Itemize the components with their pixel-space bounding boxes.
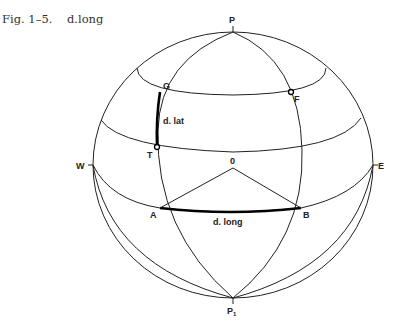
label-f: F <box>294 94 300 104</box>
meridian-right <box>233 32 302 298</box>
equator <box>93 165 373 212</box>
sphere-diagram: P G F d. lat T W E 0 A B d. long P1 <box>0 0 395 327</box>
point-f-marker <box>289 90 294 95</box>
label-north-pole: P <box>229 15 235 25</box>
meridian-left <box>158 32 233 298</box>
label-w: W <box>76 161 85 171</box>
label-center-o: 0 <box>230 156 235 166</box>
label-a: A <box>150 210 157 220</box>
middle-parallel <box>101 118 361 152</box>
radius-ob <box>233 168 301 208</box>
d-long-arc <box>160 208 301 212</box>
label-d-long: d. long <box>213 217 243 227</box>
point-t-marker <box>155 145 160 150</box>
label-south-pole: P1 <box>227 306 237 317</box>
label-t: T <box>147 150 153 160</box>
radius-oa <box>160 168 233 208</box>
d-lat-arc <box>157 92 160 147</box>
label-g: G <box>163 81 170 91</box>
label-e: E <box>378 161 384 171</box>
label-d-lat: d. lat <box>163 116 184 126</box>
label-b: B <box>303 210 310 220</box>
label-south-pole-subscript: 1 <box>233 311 237 317</box>
